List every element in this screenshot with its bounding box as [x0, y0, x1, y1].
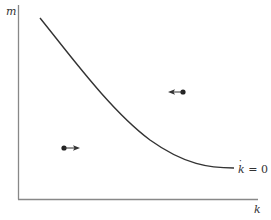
right-arrow-marker [61, 145, 80, 150]
k-dot-zero-curve [40, 18, 234, 168]
curve-label: k· = 0 [238, 164, 268, 175]
left-arrow-marker [168, 89, 186, 94]
x-axis-label: k [254, 204, 261, 215]
phase-diagram: m k k· = 0 [0, 0, 271, 220]
time-derivative-dot-icon: · [239, 157, 242, 166]
curve-label-variable: k· [238, 163, 245, 176]
diagram-canvas [0, 0, 271, 220]
y-axis-label: m [6, 6, 16, 17]
curve-label-equals: = 0 [245, 163, 268, 176]
